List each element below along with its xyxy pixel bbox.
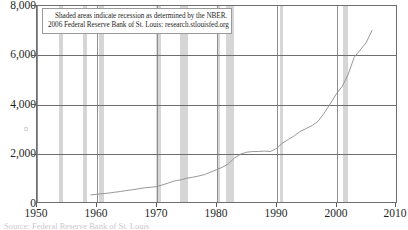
series-line-chart: [37, 6, 396, 202]
x-axis-tick-label: 1980: [194, 207, 238, 219]
annotation-line-2: 2006 Federal Reserve Bank of St. Louis: …: [48, 21, 227, 30]
annotation-line-1: Shaded areas indicate recession as deter…: [48, 12, 227, 21]
x-axis-tick-label: 1950: [14, 207, 58, 219]
axis-stray-glyph: ¤: [24, 126, 28, 134]
series-1-polyline: [91, 31, 372, 195]
x-axis-tick-label: 1970: [134, 207, 178, 219]
plot-area: Shaded areas indicate recession as deter…: [36, 5, 397, 203]
x-gridline: [396, 6, 397, 202]
x-axis-tick-label: 1960: [74, 207, 118, 219]
chart-figure: 8,000 6,000 4,000 2,000 0 ¤: [0, 0, 408, 230]
x-axis-tick-label: 1990: [254, 207, 298, 219]
x-axis-tick-label: 2000: [314, 207, 358, 219]
x-axis-tick-label: 2010: [373, 207, 408, 219]
source-caption: Source: Federal Reserve Bank of St. Loui…: [4, 221, 404, 230]
annotation-textbox: Shaded areas indicate recession as deter…: [42, 8, 232, 34]
